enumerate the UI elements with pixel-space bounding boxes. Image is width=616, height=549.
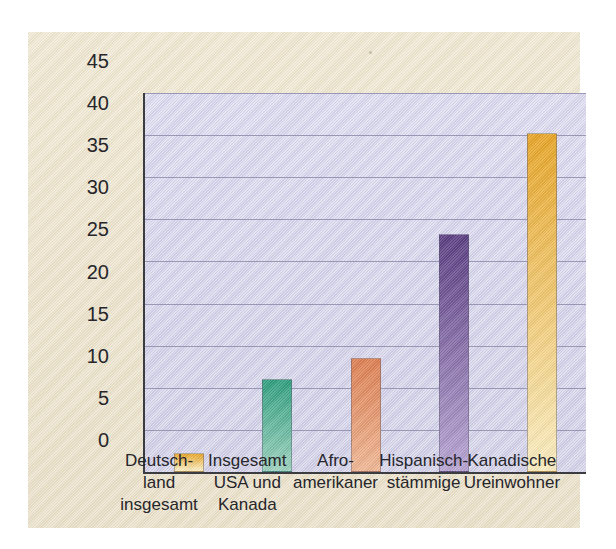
gridline — [145, 93, 586, 94]
gridline — [145, 219, 586, 220]
y-tick-label: 40 — [63, 93, 109, 113]
y-tick-label: 15 — [63, 304, 109, 324]
plot-area — [143, 93, 586, 474]
gridline — [145, 346, 586, 347]
y-tick-label: 25 — [63, 219, 109, 239]
x-category-label: Kanadische Ureinwohner — [453, 450, 571, 494]
gridline — [145, 304, 586, 305]
gridline — [145, 261, 586, 262]
y-tick-label: 10 — [63, 346, 109, 366]
y-tick-label: 30 — [63, 177, 109, 197]
y-tick-label: 0 — [63, 430, 109, 450]
bar — [527, 133, 557, 472]
bar — [439, 234, 469, 472]
gridline — [145, 135, 586, 136]
gridline — [145, 177, 586, 178]
y-tick-label: 5 — [63, 388, 109, 408]
y-tick-label: 35 — [63, 135, 109, 155]
y-tick-label: 45 — [63, 51, 109, 71]
chart-figure: Prozent Schulabgänger ohne Abschluss der… — [0, 0, 616, 549]
chart-panel-background: Prozent Schulabgänger ohne Abschluss der… — [28, 32, 580, 528]
y-tick-label: 20 — [63, 262, 109, 282]
scan-speck — [369, 51, 372, 54]
